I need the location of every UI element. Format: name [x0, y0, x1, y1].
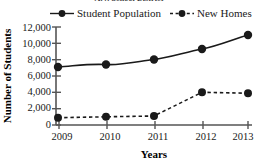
data-point-student-population[interactable] — [150, 55, 158, 63]
y-tick-label: 0 — [46, 119, 51, 130]
x-tick-label: 2011 — [148, 131, 169, 142]
x-axis-title: Years — [141, 148, 168, 160]
data-point-new-homes[interactable] — [102, 113, 110, 121]
y-tick-label: 6,000 — [27, 70, 51, 81]
data-point-student-population[interactable] — [54, 63, 62, 71]
data-point-new-homes[interactable] — [198, 88, 206, 96]
y-tick-label: 10,000 — [22, 38, 51, 49]
y-tick-label: 12,000 — [22, 22, 51, 33]
chart-container: A.V. School District Student Population … — [0, 0, 258, 163]
data-point-student-population[interactable] — [102, 60, 110, 68]
data-point-new-homes[interactable] — [150, 112, 158, 120]
y-tick-label: 4,000 — [27, 86, 51, 97]
data-point-new-homes[interactable] — [54, 114, 62, 122]
x-tick-label: 2012 — [196, 131, 217, 142]
x-tick-label: 2013 — [233, 131, 254, 142]
x-tick-label: 2009 — [52, 131, 73, 142]
data-point-new-homes[interactable] — [244, 89, 252, 97]
data-point-student-population[interactable] — [244, 31, 252, 39]
x-tick-label: 2010 — [100, 131, 121, 142]
data-point-student-population[interactable] — [198, 45, 206, 53]
y-tick-label: 2,000 — [27, 102, 51, 113]
y-tick-label: 8,000 — [27, 54, 51, 65]
y-axis-title: Number of Students — [1, 28, 13, 123]
plot-area: Number of Students Years 12,000 10,000 8… — [0, 0, 258, 163]
